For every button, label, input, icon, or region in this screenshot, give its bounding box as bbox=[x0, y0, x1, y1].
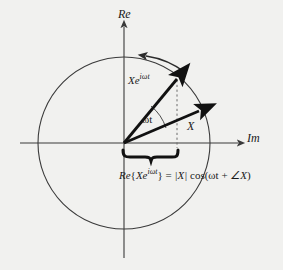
rotating-phasor-vector bbox=[124, 79, 177, 143]
equation-equals: = bbox=[163, 169, 175, 181]
rotation-arrow-icon bbox=[146, 56, 186, 73]
phasor-diagram-figure: Re Im Xeiωt ωt X Re{Xeiωt} = |X| cos(ωt … bbox=[0, 0, 283, 270]
rotating-phasor-label-exponent: iωt bbox=[140, 72, 150, 81]
imaginary-axis-label: Im bbox=[247, 132, 260, 144]
equation-cos: cos( bbox=[187, 169, 208, 181]
equation-operand-exponent: iωt bbox=[148, 167, 158, 176]
rotating-phasor-label-base: Xe bbox=[128, 74, 140, 86]
equation-operand: Xe bbox=[136, 169, 148, 181]
equation-angle-symbol: ∠X bbox=[230, 169, 247, 181]
equation-plus: + bbox=[219, 169, 231, 181]
rotating-phasor-label: Xeiωt bbox=[128, 73, 150, 86]
omega-t-label: ωt bbox=[142, 114, 152, 125]
projection-brace bbox=[123, 150, 178, 161]
real-axis-label: Re bbox=[118, 8, 131, 20]
equation-magnitude: |X| bbox=[174, 169, 187, 181]
diagram-canvas bbox=[0, 0, 283, 270]
equation-prefix: Re bbox=[119, 169, 131, 181]
projection-equation: Re{Xeiωt} = |X| cos(ωt + ∠X) bbox=[119, 168, 251, 181]
equation-argument: ωt bbox=[208, 169, 218, 181]
equation-close-paren: ) bbox=[247, 169, 251, 181]
static-phasor-label: X bbox=[187, 120, 194, 132]
